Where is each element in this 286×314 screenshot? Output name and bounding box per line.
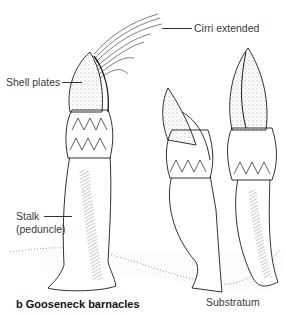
- barnacle-illustration: [0, 0, 286, 314]
- figure-caption: b Gooseneck barnacles: [16, 298, 140, 310]
- label-shell-plates: Shell plates: [6, 76, 60, 88]
- label-stalk: Stalk: [16, 210, 39, 222]
- leader-shell-plates: [62, 82, 82, 83]
- left-barnacle: [48, 14, 162, 291]
- label-cirri-extended: Cirri extended: [194, 22, 259, 34]
- leader-cirri: [162, 28, 192, 29]
- label-peduncle: (peduncle): [16, 223, 66, 235]
- leader-stalk: [44, 216, 72, 217]
- label-substratum: Substratum: [206, 296, 260, 308]
